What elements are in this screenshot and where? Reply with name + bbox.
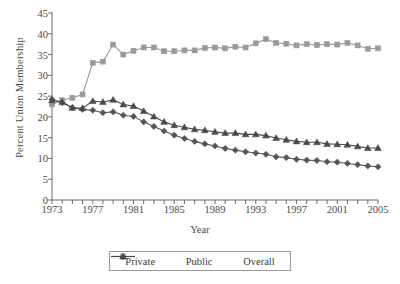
data-point-marker [202, 141, 208, 147]
data-point-marker [130, 113, 136, 119]
data-point-marker [213, 45, 218, 50]
data-point-marker [151, 113, 158, 119]
data-point-marker [89, 98, 96, 104]
data-point-marker [294, 43, 299, 48]
data-point-marker [120, 101, 127, 107]
data-point-marker [192, 48, 197, 53]
data-point-marker [365, 46, 370, 51]
legend: PrivatePublicOverall [109, 251, 291, 271]
data-point-marker [263, 151, 269, 157]
data-point-marker [273, 154, 279, 160]
data-point-marker [161, 119, 168, 125]
data-point-marker [80, 92, 85, 97]
data-point-marker [304, 157, 310, 163]
data-point-marker [162, 49, 167, 54]
data-point-marker [233, 44, 238, 49]
data-point-marker [131, 48, 136, 53]
data-point-marker [293, 156, 299, 162]
series-public [50, 37, 381, 107]
data-point-marker [120, 112, 126, 118]
legend-swatch-triangle [110, 252, 136, 261]
data-point-marker [222, 145, 228, 151]
data-point-marker [111, 42, 116, 47]
data-point-marker [171, 132, 177, 138]
data-point-marker [141, 119, 147, 125]
data-point-marker [161, 128, 167, 134]
data-point-marker [314, 42, 319, 47]
data-point-marker [141, 45, 146, 50]
data-point-marker [263, 37, 268, 42]
data-point-marker [284, 41, 289, 46]
data-point-marker [344, 160, 350, 166]
data-point-marker [151, 45, 156, 50]
data-point-marker [140, 108, 147, 114]
data-point-marker [334, 159, 340, 165]
data-point-marker [100, 110, 106, 116]
data-point-marker [151, 123, 157, 129]
data-point-marker [182, 48, 187, 53]
data-point-marker [172, 49, 177, 54]
chart-container: Percent Union Membership Year 0510152025… [0, 0, 400, 284]
data-point-marker [253, 150, 259, 156]
data-point-marker [121, 52, 126, 57]
data-point-marker [324, 159, 330, 165]
data-point-marker [243, 45, 248, 50]
data-point-marker [304, 42, 309, 47]
data-point-marker [283, 155, 289, 161]
data-point-marker [223, 46, 228, 51]
data-point-marker [110, 97, 117, 103]
legend-label: Public [186, 256, 213, 267]
data-point-marker [335, 42, 340, 47]
series-line [52, 100, 378, 148]
data-point-marker [90, 107, 96, 113]
legend-item-public[interactable]: Public [186, 256, 213, 267]
data-point-marker [212, 143, 218, 149]
data-point-marker [375, 164, 381, 170]
data-point-marker [110, 109, 116, 115]
data-point-marker [345, 40, 350, 45]
data-point-marker [202, 45, 207, 50]
data-point-marker [242, 149, 248, 155]
data-point-marker [274, 40, 279, 45]
legend-label: Overall [243, 256, 275, 267]
plot-area [0, 0, 400, 284]
data-point-marker [325, 42, 330, 47]
data-point-marker [192, 138, 198, 144]
data-point-marker [376, 46, 381, 51]
legend-item-overall[interactable]: Overall [243, 256, 275, 267]
data-point-marker [365, 163, 371, 169]
data-point-marker [253, 41, 258, 46]
data-point-marker [90, 60, 95, 65]
data-point-marker [100, 59, 105, 64]
data-point-marker [70, 95, 75, 100]
data-point-marker [314, 157, 320, 163]
series-overall [49, 97, 382, 151]
data-point-marker [355, 162, 361, 168]
data-point-marker [355, 43, 360, 48]
data-point-marker [232, 147, 238, 153]
data-point-marker [181, 135, 187, 141]
